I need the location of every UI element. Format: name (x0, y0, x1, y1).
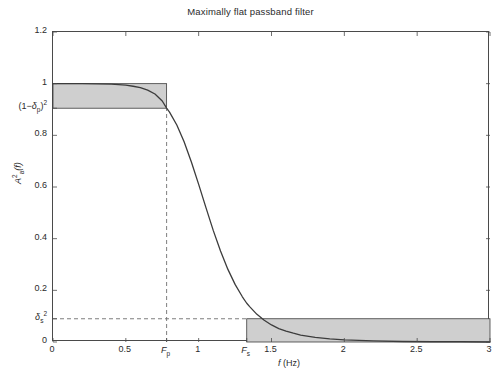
y-tick-label-0p4: 0.4 (0, 232, 47, 242)
y-axis-title-subscript: a (18, 171, 25, 175)
x-tick-label-0: 0 (27, 344, 77, 354)
y-tick-label-1: 1 (0, 77, 47, 87)
y-axis-title-variable: A (13, 178, 23, 184)
x-axis-title-unit: (Hz) (283, 358, 300, 368)
x-tick-label-1: 1 (173, 344, 223, 354)
x-tick-label-2p5: 2.5 (391, 344, 441, 354)
x-tick-label-2: 2 (318, 344, 368, 354)
x-axis-title: f (Hz) (278, 358, 300, 368)
passband-tolerance-box (53, 84, 167, 109)
y-tick-label-deltas: δs2 (0, 312, 47, 322)
y-tick-label-0p6: 0.6 (0, 180, 47, 190)
y-axis-title-argument: (f) (13, 162, 23, 171)
chart-title: Maximally flat passband filter (0, 6, 501, 17)
x-tick-label-1p5: 1.5 (246, 344, 296, 354)
y-tick-label-deltap: (1−δp)2 (0, 101, 47, 111)
plot-svg (53, 32, 490, 342)
y-tick-label-0p8: 0.8 (0, 128, 47, 138)
figure-canvas: Maximally flat passband filter 1.21(1−δp… (0, 0, 501, 376)
plot-area (52, 31, 489, 341)
response-curve (53, 84, 490, 342)
y-axis-title-exponent: 2 (11, 174, 18, 178)
y-tick-label-0p2: 0.2 (0, 283, 47, 293)
x-tick-label-3: 3 (464, 344, 501, 354)
y-axis-title: A2a(f) (13, 153, 23, 193)
y-tick-label-1p2: 1.2 (0, 25, 47, 35)
